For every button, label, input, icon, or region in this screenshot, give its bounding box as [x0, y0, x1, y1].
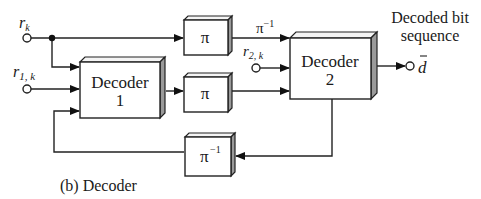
decoder-2-label: Decoder: [301, 52, 359, 71]
output-terminal-d: [406, 62, 414, 70]
deinterleaver-base: π: [200, 147, 209, 166]
interleaver-mid-block: π: [184, 73, 232, 112]
input-label-r1k: r1, k: [13, 63, 36, 82]
interleaver-mid-label: π: [201, 84, 210, 103]
turbo-decoder-diagram: Decoder 1 π π π −1 Decoder 2 rk r1, k: [0, 0, 481, 199]
input-terminal-r2k: [252, 64, 260, 72]
input-terminal-rk: [23, 34, 31, 42]
decoder-1-block: Decoder 1: [80, 57, 165, 118]
interleaver-top-block: π: [184, 16, 232, 55]
output-title-line1: Decoded bit: [391, 9, 469, 26]
input-label-r2k: r2, k: [243, 43, 264, 61]
figure-caption: (b) Decoder: [60, 177, 138, 195]
input-terminal-r1k: [23, 85, 31, 93]
decoder-1-label: Decoder: [91, 73, 149, 92]
output-symbol-d: d: [418, 58, 427, 77]
input-label-rk: rk: [19, 14, 30, 33]
interleaver-top-label: π: [201, 28, 210, 47]
decoder-2-block: Decoder 2: [290, 32, 377, 99]
output-title-line2: sequence: [401, 27, 460, 45]
decoder-1-number: 1: [116, 91, 125, 110]
junction-dot: [49, 35, 55, 41]
wire-rk-to-decoder1: [52, 38, 79, 67]
wire-decoder2-to-deinterleaver: [236, 99, 332, 156]
deinterleaver-sup: −1: [210, 144, 221, 155]
edge-label-pi-inverse: π−1: [256, 18, 274, 36]
deinterleaver-bottom-block: π −1: [185, 133, 235, 176]
decoder-2-number: 2: [326, 70, 335, 89]
